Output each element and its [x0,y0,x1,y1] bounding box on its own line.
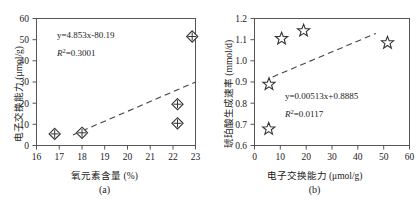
data-point [298,24,310,36]
y-axis-title-b: 琥珀酸生成速率 (mmol/d) [221,40,235,148]
x-tick-label: 23 [191,152,201,162]
x-tick-label: 20 [123,152,133,162]
x-tick-label: 17 [54,152,64,162]
y-tick-label: 0 [24,141,29,151]
data-point [187,31,198,42]
y-tick-label: 1.0 [235,56,247,66]
x-tick-label: 30 [327,152,337,162]
panel-caption-a: (a) [0,184,209,195]
y-tick-label: 60 [20,14,30,24]
r-squared-annotation-a: R2=0.3001 [56,47,96,59]
y-tick-labels-b: 0.6 0.7 0.8 0.9 1.0 1.1 1.2 [235,14,247,151]
x-tick-label: 10 [276,152,286,162]
panel-a: 16 17 18 19 20 21 22 23 0 10 20 30 40 50… [0,0,209,202]
y-tick-label: 0.7 [235,120,247,130]
x-tick-label: 60 [405,152,415,162]
data-point [263,122,275,134]
data-point [172,118,183,129]
y-tick-label: 0.6 [235,141,247,151]
x-tick-labels-b: 0 10 20 30 40 50 60 [252,152,414,162]
figure-container: 16 17 18 19 20 21 22 23 0 10 20 30 40 50… [0,0,419,202]
r-squared-value: =0.0117 [294,109,324,119]
x-tick-label: 19 [100,152,110,162]
y-tick-label: 50 [20,35,30,45]
x-tick-labels-a: 16 17 18 19 20 21 22 23 [32,152,201,162]
x-tick-label: 20 [301,152,311,162]
y-axis-ticks-b [251,19,255,146]
x-tick-label: 16 [32,152,42,162]
x-tick-label: 50 [379,152,389,162]
x-axis-ticks-b [255,146,410,150]
x-tick-label: 22 [168,152,178,162]
y-tick-label: 0.9 [235,77,247,87]
y-axis-title-a: 电子交换能力 (μmol/g) [11,46,25,142]
x-axis-ticks-a [37,146,196,150]
r-squared-annotation-b: R2=0.0117 [284,108,324,120]
data-point [49,128,60,139]
x-tick-label: 40 [353,152,363,162]
panel-caption-b: (b) [210,184,419,195]
equation-annotation-a: y=4.853x-80.19 [57,30,115,40]
x-tick-label: 21 [145,152,155,162]
data-point [381,36,393,48]
trendline-b [273,33,376,77]
x-tick-label: 18 [77,152,87,162]
y-tick-label: 1.2 [235,14,247,24]
r-squared-value: =0.3001 [66,48,96,58]
equation-annotation-b: y=0.00513x+0.8885 [285,91,359,101]
data-point [263,78,275,90]
x-axis-title-b: 电子交换能力 (μmol/g) [210,168,419,182]
y-tick-label: 1.1 [235,35,247,45]
x-axis-title-a: 氧元素含量 (%) [0,168,209,182]
data-point [172,99,183,110]
x-tick-label: 0 [252,152,257,162]
y-tick-label: 0.8 [235,99,247,109]
data-point [276,32,288,44]
y-axis-ticks-a [33,19,37,146]
panel-b: 0 10 20 30 40 50 60 0.6 0.7 0.8 0.9 1.0 … [210,0,419,202]
